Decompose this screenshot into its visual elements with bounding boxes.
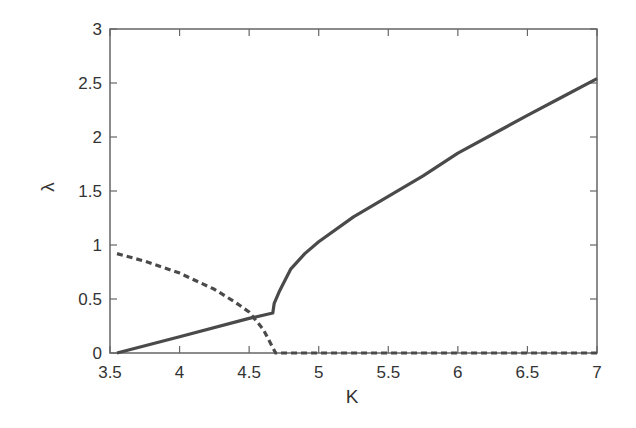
x-tick-label: 6 xyxy=(453,363,462,382)
x-tick-label: 7 xyxy=(592,363,601,382)
series-layer xyxy=(117,79,597,353)
x-axis-ticks: 3.544.555.566.57 xyxy=(98,29,602,382)
plot-border xyxy=(110,29,597,353)
x-axis-label: K xyxy=(346,386,359,407)
y-tick-label: 0.5 xyxy=(78,290,102,309)
y-tick-label: 0 xyxy=(93,344,102,363)
x-tick-label: 6.5 xyxy=(516,363,540,382)
y-axis-ticks: 00.511.522.53 xyxy=(78,20,597,363)
x-tick-label: 4.5 xyxy=(237,363,261,382)
chart-canvas: 3.544.555.566.57 00.511.522.53 K λ xyxy=(0,0,636,428)
y-tick-label: 3 xyxy=(93,20,102,39)
x-tick-label: 4 xyxy=(175,363,184,382)
y-tick-label: 2 xyxy=(93,128,102,147)
x-tick-label: 3.5 xyxy=(98,363,122,382)
series-dashed-line xyxy=(117,254,597,353)
y-tick-label: 2.5 xyxy=(78,74,102,93)
series-solid-line xyxy=(117,79,597,353)
plot-frame xyxy=(110,29,597,353)
y-axis-label: λ xyxy=(37,182,58,192)
y-tick-label: 1 xyxy=(93,236,102,255)
y-tick-label: 1.5 xyxy=(78,182,102,201)
x-tick-label: 5 xyxy=(314,363,323,382)
x-tick-label: 5.5 xyxy=(376,363,400,382)
